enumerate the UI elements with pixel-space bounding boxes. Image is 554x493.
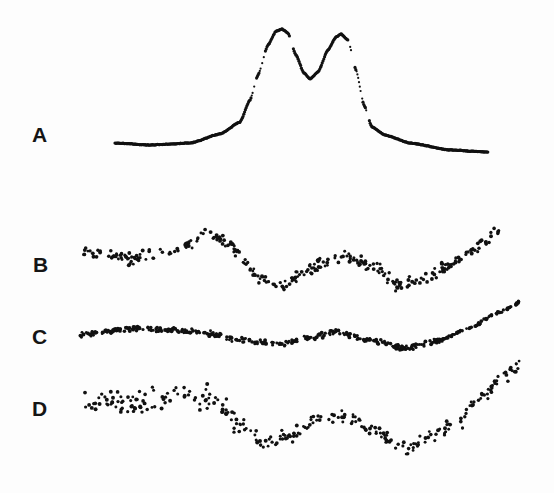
trace-a-spectrum [113,27,489,153]
trace-c-scatter [78,300,520,352]
figure-plot-area [0,0,554,493]
trace-b-scatter [82,227,500,293]
trace-d-scatter [83,360,520,456]
